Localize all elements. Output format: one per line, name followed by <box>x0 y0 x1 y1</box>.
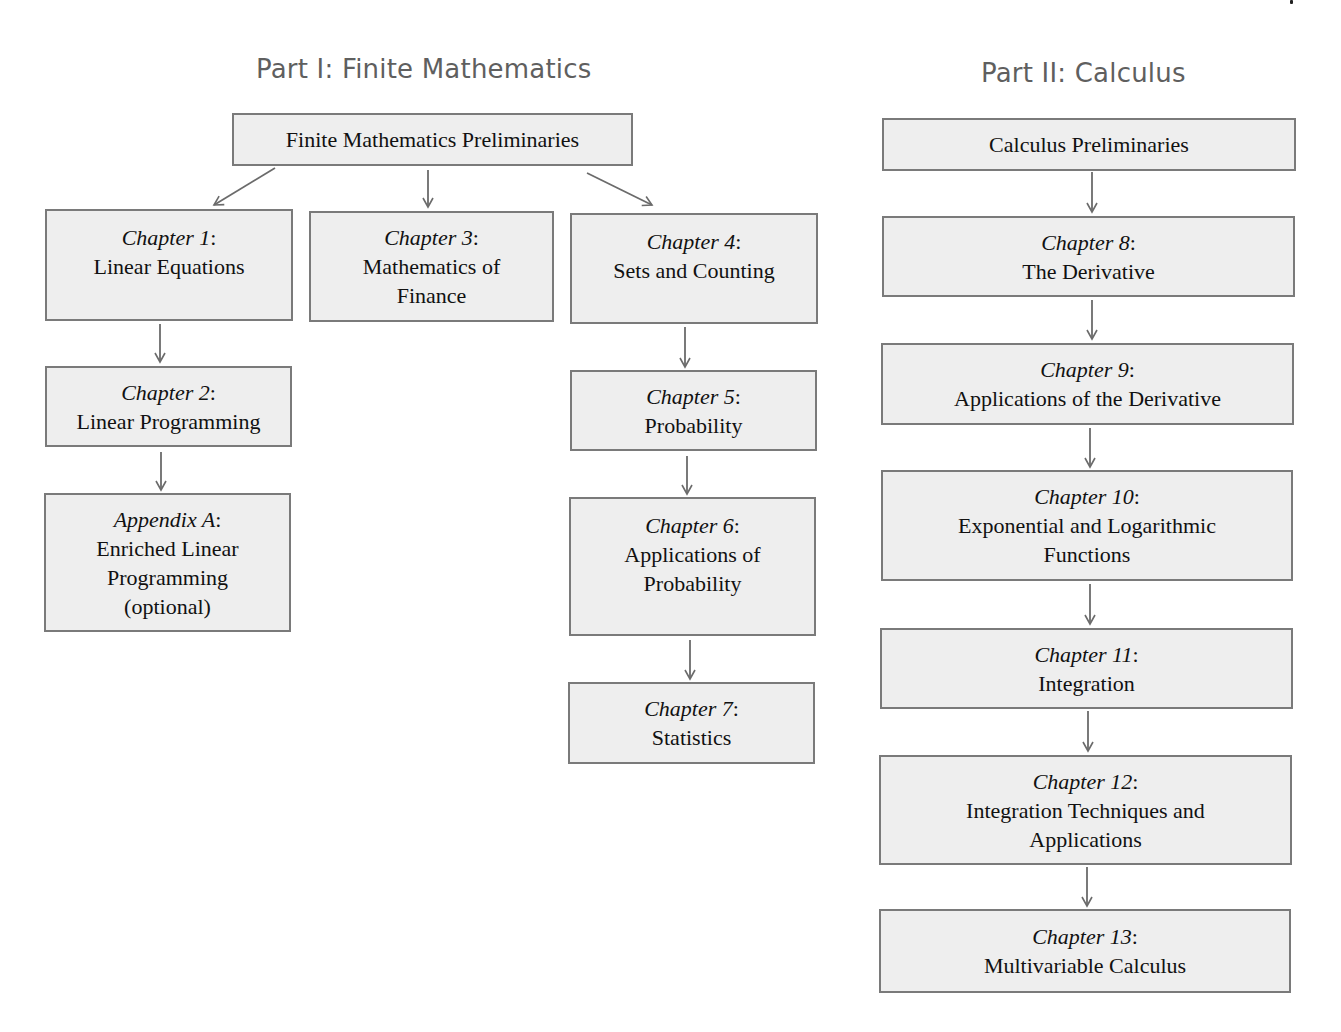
node-chapter-9: Chapter 9: Applications of the Derivativ… <box>881 343 1294 425</box>
colon: : <box>210 225 216 250</box>
colon: : <box>1132 769 1138 794</box>
arrow-prelim-to-ch1 <box>214 168 275 205</box>
node-chapter-10: Chapter 10: Exponential and Logarithmic … <box>881 470 1293 581</box>
chapter-label: Chapter 7 <box>644 696 733 721</box>
chapter-label: Appendix A <box>114 507 216 532</box>
arrow-prelim-to-ch4 <box>587 173 652 205</box>
chapter-title-line: Mathematics of <box>363 252 500 281</box>
chapter-title: Linear Programming <box>77 407 261 436</box>
colon: : <box>735 229 741 254</box>
chapter-label: Chapter 11 <box>1034 642 1132 667</box>
chapter-title-line: Applications <box>1029 825 1141 854</box>
node-chapter-12: Chapter 12: Integration Techniques and A… <box>879 755 1292 865</box>
node-chapter-6: Chapter 6: Applications of Probability <box>569 497 816 636</box>
colon: : <box>215 507 221 532</box>
colon: : <box>1132 642 1138 667</box>
node-chapter-7: Chapter 7: Statistics <box>568 682 815 764</box>
colon: : <box>1134 484 1140 509</box>
chapter-title-line: Programming <box>107 563 228 592</box>
chapter-label: Chapter 3 <box>384 225 473 250</box>
node-appendix-a: Appendix A: Enriched Linear Programming … <box>44 493 291 632</box>
node-chapter-13: Chapter 13: Multivariable Calculus <box>879 909 1291 993</box>
chapter-label: Chapter 4 <box>647 229 736 254</box>
colon: : <box>1130 230 1136 255</box>
node-chapter-3: Chapter 3: Mathematics of Finance <box>309 211 554 322</box>
node-chapter-8: Chapter 8: The Derivative <box>882 216 1295 297</box>
chapter-title: Linear Equations <box>94 252 245 281</box>
chapter-title: Integration <box>1038 669 1135 698</box>
colon: : <box>1132 924 1138 949</box>
chapter-label: Chapter 2 <box>121 380 210 405</box>
chapter-title: Multivariable Calculus <box>984 951 1186 980</box>
chapter-title-line: Finance <box>397 281 467 310</box>
node-title: Finite Mathematics Preliminaries <box>286 125 579 154</box>
chapter-label: Chapter 8 <box>1041 230 1130 255</box>
chapter-title-line: Applications of <box>624 540 760 569</box>
chapter-title-line: Functions <box>1044 540 1131 569</box>
node-title: Calculus Preliminaries <box>989 130 1189 159</box>
colon: : <box>733 696 739 721</box>
chapter-title-line: Enriched Linear <box>96 534 238 563</box>
chapter-title-line: Exponential and Logarithmic <box>958 511 1216 540</box>
chapter-title-line: Probability <box>644 569 742 598</box>
node-chapter-4: Chapter 4: Sets and Counting <box>570 213 818 324</box>
chapter-title: Statistics <box>652 723 731 752</box>
colon: : <box>1129 357 1135 382</box>
chapter-label: Chapter 1 <box>122 225 211 250</box>
chapter-label: Chapter 10 <box>1034 484 1134 509</box>
chapter-label: Chapter 12 <box>1033 769 1133 794</box>
chapter-title: Sets and Counting <box>613 256 774 285</box>
node-chapter-5: Chapter 5: Probability <box>570 370 817 451</box>
chapter-title: Applications of the Derivative <box>954 384 1221 413</box>
chapter-title: The Derivative <box>1022 257 1155 286</box>
chapter-title-line: Integration Techniques and <box>966 796 1205 825</box>
colon: : <box>735 384 741 409</box>
chapter-title-line: (optional) <box>124 592 211 621</box>
chapter-title: Probability <box>645 411 743 440</box>
node-chapter-11: Chapter 11: Integration <box>880 628 1293 709</box>
colon: : <box>734 513 740 538</box>
colon: : <box>210 380 216 405</box>
node-finite-math-preliminaries: Finite Mathematics Preliminaries <box>232 113 633 166</box>
node-chapter-1: Chapter 1: Linear Equations <box>45 209 293 321</box>
node-calculus-preliminaries: Calculus Preliminaries <box>882 118 1296 171</box>
chapter-label: Chapter 9 <box>1040 357 1129 382</box>
chapter-label: Chapter 5 <box>646 384 735 409</box>
chapter-label: Chapter 6 <box>645 513 734 538</box>
node-chapter-2: Chapter 2: Linear Programming <box>45 366 292 447</box>
colon: : <box>473 225 479 250</box>
chapter-label: Chapter 13 <box>1032 924 1132 949</box>
